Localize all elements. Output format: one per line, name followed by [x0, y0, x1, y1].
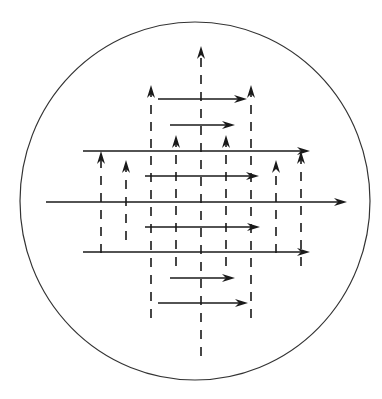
vertical-arrow-group [97, 46, 305, 356]
diagram-canvas [0, 0, 382, 399]
circular-boundary [20, 22, 370, 380]
arrow-up-icon [197, 46, 205, 59]
arrow-up-icon [272, 160, 280, 173]
field-diagram [0, 0, 382, 399]
horizontal-arrow-group [46, 95, 347, 307]
